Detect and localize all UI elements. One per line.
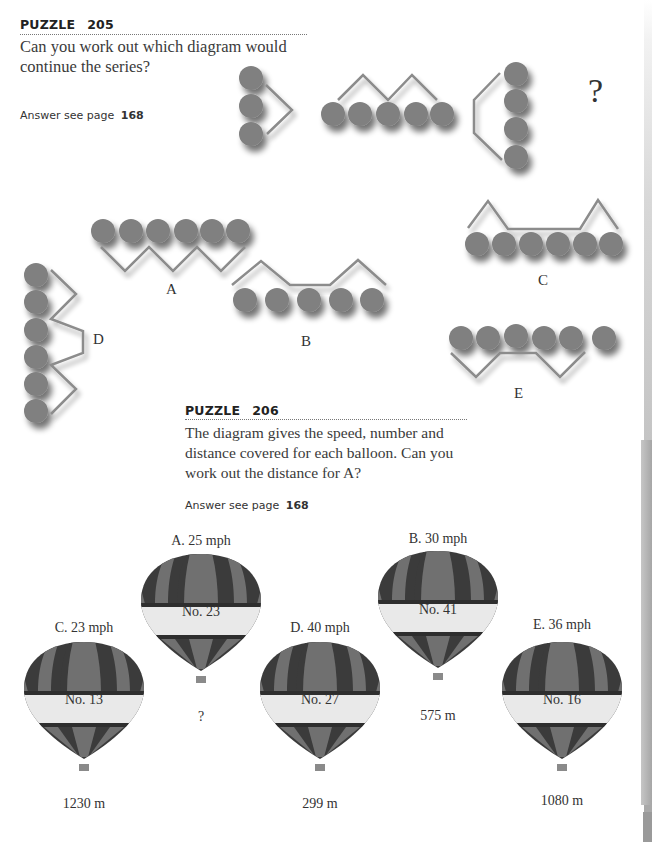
question-line: The diagram gives the speed, number and <box>185 423 485 443</box>
balloon-d-distance: 299 m <box>280 796 360 812</box>
balloon-b-number: No. 41 <box>398 602 478 618</box>
puzzle-number: 206 <box>252 403 279 418</box>
puzzle-word: PUZZLE <box>185 403 240 418</box>
balloon-b-distance: 575 m <box>398 708 478 724</box>
option-label-c: C <box>538 272 548 289</box>
puzzle-206-answer-ref: Answer see page 168 <box>185 499 309 512</box>
puzzle-206-heading: PUZZLE206 <box>185 403 279 418</box>
balloon-e-speed: E. 36 mph <box>522 617 602 633</box>
puzzle-205-diagrams <box>0 0 652 842</box>
option-label-b: B <box>301 333 311 350</box>
option-label-d: D <box>93 331 104 348</box>
option-a-diagram[interactable] <box>91 219 250 271</box>
puzzle-206-question: The diagram gives the speed, number and … <box>185 423 485 483</box>
series-diagram-1 <box>239 66 292 146</box>
balloon-c-number: No. 13 <box>44 692 124 708</box>
balloon-a-distance: ? <box>161 709 241 725</box>
option-b-diagram[interactable] <box>232 260 386 312</box>
option-d-diagram[interactable] <box>24 263 83 423</box>
balloon-e-distance: 1080 m <box>522 793 602 809</box>
balloon-d-speed: D. 40 mph <box>280 620 360 636</box>
balloon-d-number: No. 27 <box>280 692 360 708</box>
balloon-c-distance: 1230 m <box>44 796 124 812</box>
option-label-a: A <box>166 281 177 298</box>
question-line: work out the distance for A? <box>185 463 485 483</box>
heading-rule <box>185 419 467 420</box>
option-e-diagram[interactable] <box>449 324 616 377</box>
balloon-b-speed: B. 30 mph <box>398 531 478 547</box>
option-c-diagram[interactable] <box>465 200 623 256</box>
series-diagram-3 <box>474 62 528 169</box>
answer-page: 168 <box>286 499 309 512</box>
question-line: distance covered for each balloon. Can y… <box>185 443 485 463</box>
balloon-e-number: No. 16 <box>522 692 602 708</box>
balloon-a-number: No. 23 <box>161 604 241 620</box>
option-label-e: E <box>514 385 523 402</box>
balloon-c-speed: C. 23 mph <box>44 620 124 636</box>
balloon-a-speed: A. 25 mph <box>161 533 241 549</box>
answer-prefix: Answer see page <box>185 499 279 512</box>
series-diagram-2 <box>321 75 454 126</box>
